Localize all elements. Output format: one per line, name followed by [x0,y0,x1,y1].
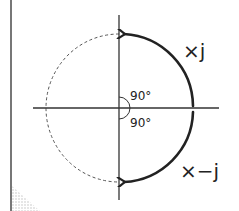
angle-arc-upper [119,97,130,108]
label-times-minus-j: ×−j [180,159,219,183]
corner-shading [12,186,40,211]
diagram-canvas: ×j ×−j 90° 90° [0,0,239,211]
label-times-j: ×j [183,39,205,63]
rotation-diagram: ×j ×−j 90° 90° [0,0,239,211]
label-angle-upper: 90° [130,89,151,103]
label-angle-lower: 90° [130,116,151,130]
angle-arc-lower [119,108,130,119]
